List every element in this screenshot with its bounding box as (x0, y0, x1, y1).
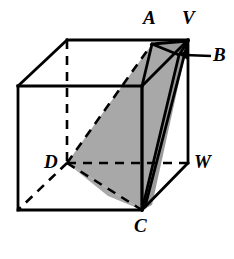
label-w: W (194, 152, 211, 171)
label-a: A (143, 8, 156, 27)
geometry-figure: A V B D W C (0, 0, 234, 259)
label-v: V (182, 8, 195, 27)
label-b: B (213, 45, 226, 64)
cube-hidden-edge-back-left-to-front-left (18, 163, 67, 210)
label-d: D (44, 152, 58, 171)
label-c: C (134, 216, 147, 235)
cube-diagram-svg (0, 0, 234, 259)
cube-edge-top-left-diagonal (18, 40, 67, 86)
